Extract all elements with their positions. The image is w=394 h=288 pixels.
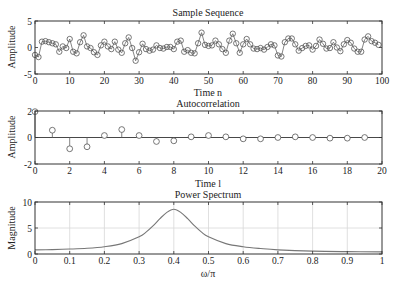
x-tick-label: 60 bbox=[238, 76, 248, 86]
x-tick-label: 16 bbox=[308, 166, 318, 176]
stem-marker bbox=[258, 136, 264, 142]
stem-marker bbox=[362, 135, 368, 141]
sample-sequence-ylabel: Amplitude bbox=[6, 25, 17, 68]
stem-marker bbox=[292, 134, 298, 140]
stem-marker bbox=[275, 135, 281, 141]
x-tick-label: 0.9 bbox=[341, 256, 353, 266]
x-tick-label: 0 bbox=[33, 76, 38, 86]
x-tick-label: 0.2 bbox=[98, 256, 110, 266]
autocorrelation-ticks: 02468101214161820-202 bbox=[24, 107, 387, 177]
x-tick-label: 0 bbox=[33, 166, 38, 176]
autocorrelation-stems bbox=[32, 109, 382, 152]
power-spectrum-xlabel: ω/π bbox=[201, 268, 215, 279]
x-tick-label: 12 bbox=[238, 166, 248, 176]
x-tick-label: 14 bbox=[273, 166, 283, 176]
x-tick-label: 0.1 bbox=[64, 256, 76, 266]
autocorrelation-xlabel: Time l bbox=[195, 178, 221, 189]
figure: Sample Sequence 0102030405060708090100-5… bbox=[0, 0, 394, 288]
y-tick-label: 0 bbox=[27, 133, 32, 143]
stem-marker bbox=[49, 127, 55, 133]
stem-marker bbox=[102, 133, 108, 139]
x-tick-label: 2 bbox=[67, 166, 72, 176]
x-tick-label: 20 bbox=[377, 166, 387, 176]
x-tick-label: 8 bbox=[171, 166, 176, 176]
y-tick-label: 5 bbox=[27, 17, 32, 27]
x-tick-label: 0.6 bbox=[237, 256, 249, 266]
power-spectrum-grid bbox=[35, 202, 382, 254]
x-tick-label: 0.3 bbox=[133, 256, 145, 266]
x-tick-label: 70 bbox=[273, 76, 283, 86]
stem-marker bbox=[240, 136, 246, 142]
power-spectrum-title: Power Spectrum bbox=[175, 189, 242, 200]
autocorrelation-title: Autocorrelation bbox=[176, 98, 239, 109]
sample-sequence-axes: Sample Sequence 0102030405060708090100-5… bbox=[6, 7, 389, 98]
x-tick-label: 0 bbox=[33, 256, 38, 266]
autocorrelation-axes: Autocorrelation 02468101214161820-202 Ti… bbox=[6, 98, 387, 189]
stem-marker bbox=[171, 138, 177, 144]
x-tick-label: 0.8 bbox=[307, 256, 319, 266]
y-tick-label: 0 bbox=[27, 43, 32, 53]
stem-marker bbox=[310, 135, 316, 141]
y-tick-label: -2 bbox=[24, 160, 32, 170]
x-tick-label: 50 bbox=[204, 76, 214, 86]
sample-sequence-series bbox=[32, 30, 381, 63]
x-tick-label: 0.5 bbox=[203, 256, 215, 266]
x-tick-label: 0.4 bbox=[168, 256, 180, 266]
x-tick-label: 4 bbox=[102, 166, 107, 176]
stem-marker bbox=[223, 134, 229, 140]
power-spectrum-ylabel: Magnitude bbox=[6, 206, 17, 250]
stem-marker bbox=[136, 133, 142, 139]
x-tick-label: 40 bbox=[169, 76, 179, 86]
stem-marker bbox=[206, 133, 212, 139]
x-tick-label: 0.7 bbox=[272, 256, 284, 266]
stem-marker bbox=[344, 135, 350, 141]
power-spectrum-ticks: 00.10.20.30.40.50.60.70.80.910510 bbox=[23, 198, 385, 267]
stem-marker bbox=[154, 139, 160, 145]
stem-marker bbox=[327, 135, 333, 141]
y-tick-label: 0 bbox=[27, 250, 32, 260]
y-tick-label: 10 bbox=[23, 198, 33, 208]
stem-marker bbox=[84, 144, 90, 150]
stem-marker bbox=[67, 146, 73, 152]
x-tick-label: 10 bbox=[65, 76, 75, 86]
stem-marker bbox=[119, 127, 125, 133]
x-tick-label: 6 bbox=[137, 166, 142, 176]
x-tick-label: 90 bbox=[343, 76, 353, 86]
power-spectrum-axes: Power Spectrum 00.10.20.30.40.50.60.70.8… bbox=[6, 189, 385, 279]
sample-sequence-xlabel: Time n bbox=[194, 87, 222, 98]
sample-sequence-title: Sample Sequence bbox=[173, 7, 244, 18]
stem-marker bbox=[188, 134, 194, 140]
x-tick-label: 80 bbox=[308, 76, 318, 86]
autocorrelation-ylabel: Amplitude bbox=[6, 115, 17, 158]
y-tick-label: -5 bbox=[24, 70, 32, 80]
x-tick-label: 10 bbox=[204, 166, 214, 176]
y-tick-label: 2 bbox=[27, 107, 32, 117]
x-tick-label: 20 bbox=[100, 76, 110, 86]
y-tick-label: 5 bbox=[27, 224, 32, 234]
x-tick-label: 1 bbox=[380, 256, 385, 266]
x-tick-label: 18 bbox=[343, 166, 353, 176]
x-tick-label: 100 bbox=[375, 76, 390, 86]
x-tick-label: 30 bbox=[134, 76, 144, 86]
